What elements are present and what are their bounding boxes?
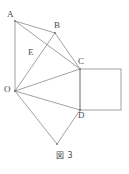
vertex-label-E: E [28,48,34,57]
vertex-dot-A [14,20,16,22]
vertex-label-B: B [54,21,60,30]
vertex-label-O: O [4,85,11,94]
vertex-dot-O [14,90,16,92]
geometry-diagram [0,0,129,174]
vertex-label-D: D [78,111,85,120]
edge-A-C [15,21,80,69]
figure-caption: 図 3 [0,151,129,161]
vertex-dot-B [54,32,56,34]
vertex-label-A: A [7,10,14,19]
edge-A-B [15,21,55,33]
figure-3-container: A B E C O D 図 3 [0,0,129,174]
edge-B-O [15,33,55,91]
edge-O-C [15,69,80,91]
vertex-dot-F [56,143,58,145]
edge-group [15,21,80,144]
edge-O-D [15,91,80,110]
vertex-label-C: C [78,57,84,66]
edge-D-F [57,110,80,144]
square-group [80,69,121,110]
square-CD [80,69,121,110]
edge-B-C [55,33,80,69]
vertex-dot-C [79,68,81,70]
vertex-dot-group [14,20,81,145]
edge-O-F [15,91,57,144]
